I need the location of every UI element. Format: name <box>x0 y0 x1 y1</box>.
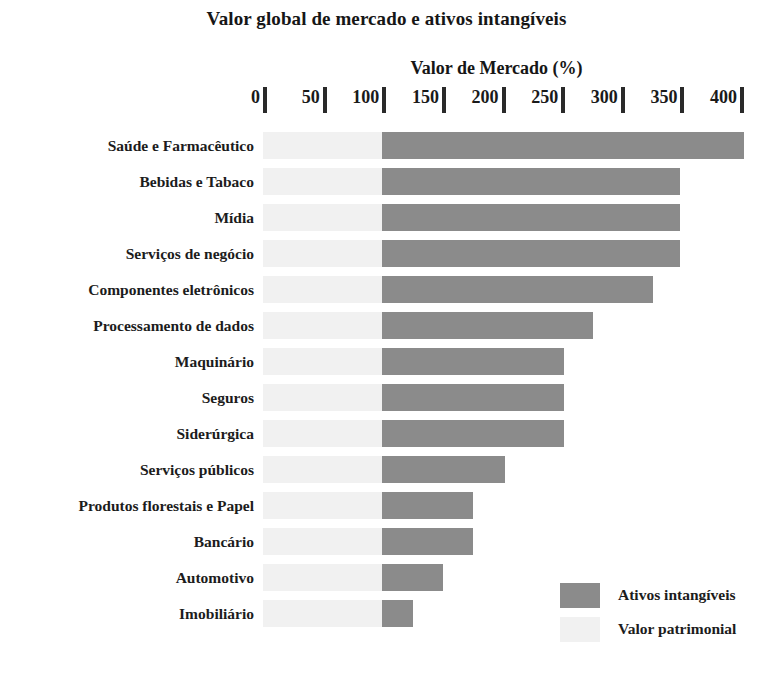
stacked-bar <box>263 600 413 627</box>
x-axis-tick-mark <box>621 87 625 113</box>
bar-segment-intangible <box>382 564 443 591</box>
x-axis-tick: 0 <box>251 88 267 118</box>
stacked-bar <box>263 384 564 411</box>
bar-segment-book-value <box>263 600 382 627</box>
category-label: Bancário <box>18 528 254 555</box>
chart-container: Valor global de mercado e ativos intangí… <box>0 0 773 686</box>
bar-segment-intangible <box>382 204 680 231</box>
x-axis-tick: 100 <box>352 88 386 118</box>
x-axis-tick: 200 <box>472 88 506 118</box>
bar-segment-book-value <box>263 420 382 447</box>
category-label: Produtos florestais e Papel <box>18 492 254 519</box>
stacked-bar <box>263 204 680 231</box>
bar-segment-intangible <box>382 528 473 555</box>
x-axis-tick-mark <box>680 87 684 113</box>
legend-item: Ativos intangíveis <box>560 578 770 612</box>
x-axis-tick-label: 400 <box>710 88 740 107</box>
category-label: Bebidas e Tabaco <box>18 168 254 195</box>
stacked-bar <box>263 240 680 267</box>
category-label: Siderúrgica <box>18 420 254 447</box>
x-axis-tick-label: 150 <box>412 88 442 107</box>
bar-row: Componentes eletrônicos <box>0 276 773 303</box>
legend-swatch <box>560 617 600 642</box>
bar-row: Bancário <box>0 528 773 555</box>
bar-row: Siderúrgica <box>0 420 773 447</box>
bar-row: Serviços públicos <box>0 456 773 483</box>
x-axis-tick-mark <box>442 87 446 113</box>
x-axis-tick-label: 350 <box>650 88 680 107</box>
category-label: Imobiliário <box>18 600 254 627</box>
x-axis-tick-label: 200 <box>472 88 502 107</box>
bar-segment-book-value <box>263 204 382 231</box>
x-axis-tick-mark <box>502 87 506 113</box>
category-label: Serviços públicos <box>18 456 254 483</box>
bar-row: Maquinário <box>0 348 773 375</box>
plot-area: Saúde e FarmacêuticoBebidas e TabacoMídi… <box>0 128 773 656</box>
x-axis-tick: 50 <box>302 88 327 118</box>
bar-segment-book-value <box>263 168 382 195</box>
bar-segment-intangible <box>382 420 563 447</box>
category-label: Serviços de negócio <box>18 240 254 267</box>
bar-segment-intangible <box>382 240 680 267</box>
x-axis-tick-mark <box>382 87 386 113</box>
bar-segment-book-value <box>263 456 382 483</box>
x-axis-title: Valor de Mercado (%) <box>248 58 745 79</box>
bar-row: Bebidas e Tabaco <box>0 168 773 195</box>
x-axis-tick: 250 <box>531 88 565 118</box>
legend-label: Valor patrimonial <box>618 620 736 638</box>
x-axis-tick: 400 <box>710 88 744 118</box>
x-axis-tick: 150 <box>412 88 446 118</box>
x-axis-tick-label: 300 <box>591 88 621 107</box>
category-label: Maquinário <box>18 348 254 375</box>
category-label: Componentes eletrônicos <box>18 276 254 303</box>
bar-row: Serviços de negócio <box>0 240 773 267</box>
x-axis-tick-label: 100 <box>352 88 382 107</box>
legend-swatch <box>560 583 600 608</box>
bar-segment-intangible <box>382 168 680 195</box>
bar-segment-intangible <box>382 276 653 303</box>
bar-segment-intangible <box>382 492 473 519</box>
category-label: Seguros <box>18 384 254 411</box>
legend-item: Valor patrimonial <box>560 612 770 646</box>
stacked-bar <box>263 420 564 447</box>
bar-segment-book-value <box>263 564 382 591</box>
x-axis-tick: 350 <box>650 88 684 118</box>
bar-segment-book-value <box>263 528 382 555</box>
x-axis: 050100150200250300350400 <box>0 88 773 118</box>
bar-segment-book-value <box>263 240 382 267</box>
x-axis-tick: 300 <box>591 88 625 118</box>
x-axis-tick-mark <box>323 87 327 113</box>
x-axis-tick-label: 250 <box>531 88 561 107</box>
x-axis-tick-mark <box>740 87 744 113</box>
category-label: Mídia <box>18 204 254 231</box>
x-axis-tick-label: 50 <box>302 88 323 107</box>
legend-label: Ativos intangíveis <box>618 586 736 604</box>
bar-segment-book-value <box>263 348 382 375</box>
x-axis-tick-mark <box>561 87 565 113</box>
bar-segment-book-value <box>263 132 382 159</box>
x-axis-tick-mark <box>263 87 267 113</box>
bar-segment-intangible <box>382 312 593 339</box>
stacked-bar <box>263 492 473 519</box>
bar-segment-book-value <box>263 312 382 339</box>
bar-segment-intangible <box>382 384 563 411</box>
stacked-bar <box>263 456 505 483</box>
category-label: Saúde e Farmacêutico <box>18 132 254 159</box>
bar-segment-intangible <box>382 456 505 483</box>
bar-segment-intangible <box>382 348 563 375</box>
bar-segment-book-value <box>263 384 382 411</box>
bar-row: Saúde e Farmacêutico <box>0 132 773 159</box>
stacked-bar <box>263 528 473 555</box>
bar-segment-book-value <box>263 276 382 303</box>
stacked-bar <box>263 312 593 339</box>
x-axis-tick-label: 0 <box>251 88 263 107</box>
stacked-bar <box>263 132 744 159</box>
category-label: Processamento de dados <box>18 312 254 339</box>
bar-row: Mídia <box>0 204 773 231</box>
bar-segment-book-value <box>263 492 382 519</box>
bar-segment-intangible <box>382 600 413 627</box>
stacked-bar <box>263 168 680 195</box>
stacked-bar <box>263 348 564 375</box>
bar-row: Processamento de dados <box>0 312 773 339</box>
bar-segment-intangible <box>382 132 743 159</box>
